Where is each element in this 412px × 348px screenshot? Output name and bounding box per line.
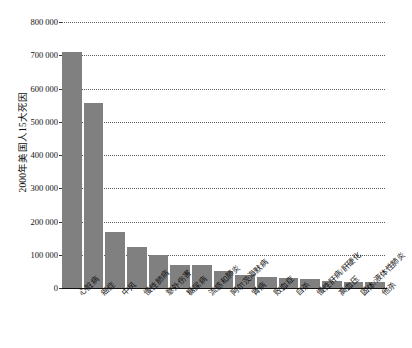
y-axis-tick-label: 100 000 xyxy=(2,250,58,260)
y-axis-tick-label: 300 000 xyxy=(2,183,58,193)
bar-chart: 2000年美国人15大死因 800 000700 000600 000500 0… xyxy=(0,0,412,348)
bar xyxy=(62,52,82,288)
x-axis-tick-label: 中风 xyxy=(119,290,127,298)
bar-series xyxy=(62,22,385,288)
x-axis-tick-label: 败血症 xyxy=(271,290,279,298)
x-axis-tick-label: 癌症 xyxy=(98,290,106,298)
y-axis-tick-label: 600 000 xyxy=(2,84,58,94)
x-axis-tick-label: 肾病 xyxy=(249,290,257,298)
x-axis-tick-label: 慢性肺病 xyxy=(141,290,149,298)
x-axis-tick-label: 流感和肺炎 xyxy=(206,290,214,298)
x-axis-tick-label: 他杀 xyxy=(379,290,387,298)
plot-area xyxy=(62,22,385,288)
y-axis-tick-label: 0 xyxy=(2,283,58,293)
x-axis-tick-label: 高血压 xyxy=(336,290,344,298)
y-axis-tick-label: 500 000 xyxy=(2,117,58,127)
y-axis-tick-labels: 800 000700 000600 000500 000400 000300 0… xyxy=(0,22,58,288)
x-axis-tick-label: 自杀 xyxy=(293,290,301,298)
bar xyxy=(105,232,125,288)
x-axis-tick-label: 慢性肝病/肝硬化 xyxy=(314,290,322,298)
y-axis-tick-label: 700 000 xyxy=(2,50,58,60)
bar xyxy=(84,103,104,288)
y-axis-tick-label: 800 000 xyxy=(2,17,58,27)
y-axis-tick-label: 200 000 xyxy=(2,217,58,227)
x-axis-tick-label: 心脏病 xyxy=(76,290,84,298)
x-axis-tick-label: 意外伤害 xyxy=(163,290,171,298)
y-axis-tick-label: 400 000 xyxy=(2,150,58,160)
x-axis-tick-label: 阿尔茨海默病 xyxy=(228,290,236,298)
x-axis-tick-label: 固体/液体性肺炎 xyxy=(358,290,366,298)
x-axis-tick-labels: 心脏病癌症中风慢性肺病意外伤害糖尿病流感和肺炎阿尔茨海默病肾病败血症自杀慢性肝病… xyxy=(62,290,385,348)
x-axis-tick-label: 糖尿病 xyxy=(184,290,192,298)
